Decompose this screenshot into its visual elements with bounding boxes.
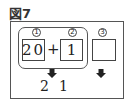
slot-box-2: 1: [60, 39, 83, 61]
marker-3: 3: [98, 28, 107, 37]
figure-label: 図7: [9, 3, 31, 22]
result-digit-tens: 2: [40, 78, 49, 94]
result-digit-ones: 1: [59, 78, 68, 94]
slot-value-1: 20: [22, 41, 45, 59]
slot-value-2: 1: [67, 41, 77, 59]
marker-1: 1: [32, 28, 41, 37]
slot-box-1: 20: [22, 39, 45, 61]
plus-operator: +: [47, 40, 60, 58]
slot-box-3: [92, 39, 116, 61]
marker-2: 2: [68, 28, 77, 37]
down-arrow-icon: [96, 69, 106, 79]
